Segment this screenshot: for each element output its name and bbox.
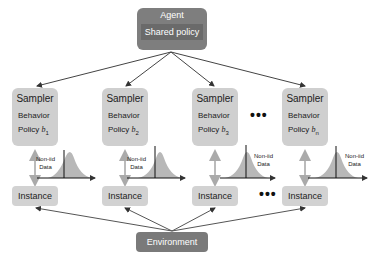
behavior-label: Behavior [288,111,320,120]
policy-label: Policy bn [288,125,319,136]
agent-box: Agent Shared policy [137,8,207,50]
policy-label: Policy b3 [198,125,229,136]
environment-box: Environment [136,232,208,252]
sampler-title: Sampler [192,93,238,104]
non-iid-label-3: Non-iidData [254,152,273,168]
instance-box-2: Instance [102,186,148,206]
non-iid-label-n: Non-iidData [345,152,364,168]
sampler-box-3: Sampler Behavior Policy b3 [192,88,238,146]
non-iid-label-1: Non-iidData [36,155,55,171]
non-iid-label-2: Non-iidData [127,155,146,171]
instance-box-1: Instance [12,186,58,206]
behavior-label: Behavior [108,111,140,120]
sampler-title: Sampler [12,93,58,104]
sampler-box-2: Sampler Behavior Policy b2 [102,88,148,146]
instance-box-n: Instance [282,186,328,206]
sampler-title: Sampler [102,93,148,104]
policy-label: Policy b1 [18,125,49,136]
instance-box-3: Instance [192,186,238,206]
policy-label: Policy b2 [108,125,139,136]
behavior-label: Behavior [18,111,50,120]
ellipsis-instances: ••• [259,186,277,202]
shared-policy-box: Shared policy [141,24,203,40]
agent-title: Agent [137,10,207,20]
sampler-title: Sampler [282,93,328,104]
sampler-box-1: Sampler Behavior Policy b1 [12,88,58,146]
ellipsis-samplers: ••• [250,107,268,123]
behavior-label: Behavior [198,111,230,120]
sampler-box-n: Sampler Behavior Policy bn [282,88,328,146]
